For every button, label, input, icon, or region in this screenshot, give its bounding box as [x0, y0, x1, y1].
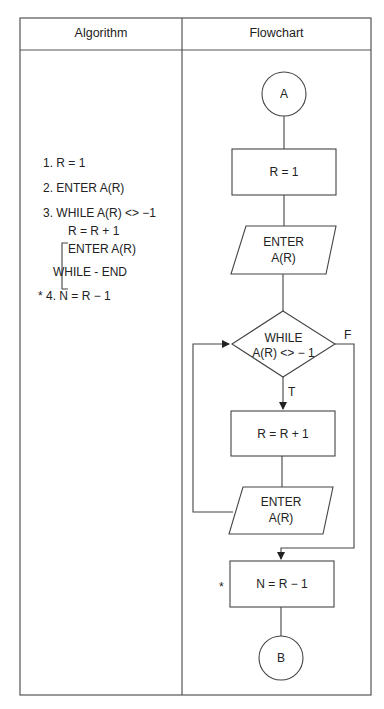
- decision-line2: A(R) <> − 1: [232, 346, 335, 360]
- algorithm-while-end: WHILE - END: [53, 265, 127, 279]
- header-algorithm: Algorithm: [20, 26, 182, 40]
- input-1-line1: ENTER: [231, 235, 336, 249]
- process-2-label: R = R + 1: [231, 427, 335, 441]
- algorithm-step-1: 1. R = 1: [43, 156, 85, 170]
- algorithm-step-4: * 4. N = R − 1: [38, 289, 111, 303]
- process-3-label: N = R − 1: [230, 577, 334, 591]
- input-1-line2: A(R): [231, 251, 336, 265]
- algorithm-loop-body-2: ENTER A(R): [68, 242, 136, 256]
- input-2-line1: ENTER: [229, 495, 333, 509]
- end-connector-label: B: [259, 651, 303, 665]
- false-label: F: [344, 328, 351, 342]
- decision-line1: WHILE: [232, 331, 335, 345]
- true-label: T: [288, 385, 295, 399]
- start-connector-label: A: [262, 87, 306, 101]
- algorithm-step-3: 3. WHILE A(R) <> −1: [43, 206, 156, 220]
- input-2-line2: A(R): [229, 511, 333, 525]
- header-flowchart: Flowchart: [182, 26, 371, 40]
- algorithm-step-2: 2. ENTER A(R): [43, 181, 124, 195]
- process-3-asterisk: *: [219, 580, 224, 594]
- process-1-label: R = 1: [232, 165, 336, 179]
- algorithm-loop-body-1: R = R + 1: [68, 224, 119, 238]
- input-enter-a-r-1: [231, 226, 336, 274]
- loop-back-arrow: [193, 344, 233, 512]
